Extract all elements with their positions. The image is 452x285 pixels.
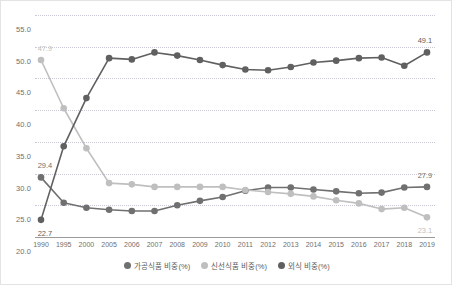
data-point (265, 67, 272, 74)
data-point (129, 181, 136, 188)
x-axis-tick-label: 2007 (147, 241, 163, 248)
y-axis-labels: 55.050.045.040.035.030.025.020.0 (1, 15, 31, 237)
data-point (151, 49, 158, 56)
data-point (38, 217, 45, 224)
data-point (219, 62, 226, 69)
x-axis-tick-label: 2008 (169, 241, 185, 248)
x-axis-tick-label: 2006 (124, 241, 140, 248)
data-point-label: 49.1 (418, 36, 433, 45)
data-point (242, 187, 249, 194)
y-axis-tick-label: 30.0 (16, 183, 31, 192)
legend-marker-icon (201, 262, 208, 269)
data-point (151, 208, 158, 215)
data-point (106, 206, 113, 213)
data-point (197, 57, 204, 64)
data-point (401, 205, 408, 212)
data-point (106, 180, 113, 187)
series-line (41, 52, 427, 219)
x-axis-tick-label: 2005 (101, 241, 117, 248)
x-axis-line (35, 237, 435, 238)
data-point (197, 198, 204, 205)
y-axis-tick-label: 55.0 (16, 25, 31, 34)
legend-item[interactable]: 가공식품 비중(%) (124, 260, 190, 271)
data-point (356, 200, 363, 207)
data-point (242, 66, 249, 73)
data-point (356, 190, 363, 197)
data-point (378, 54, 385, 61)
data-point (174, 184, 181, 191)
data-point (174, 202, 181, 209)
legend-label: 신선식품 비중(%) (211, 260, 267, 271)
y-axis-tick-label: 20.0 (16, 247, 31, 256)
x-axis-labels: 1990199520002005200620072008200920102011… (35, 241, 435, 255)
data-point (356, 55, 363, 62)
data-point (38, 174, 45, 181)
x-axis-tick-label: 2016 (351, 241, 367, 248)
data-point (129, 208, 136, 215)
x-axis-tick-label: 2019 (419, 241, 435, 248)
y-axis-tick-label: 40.0 (16, 120, 31, 129)
x-axis-tick-label: 2012 (260, 241, 276, 248)
x-axis-tick-label: 2017 (374, 241, 390, 248)
data-point (310, 186, 317, 193)
y-axis-tick-label: 35.0 (16, 151, 31, 160)
data-point-label: 47.9 (38, 44, 53, 53)
x-axis-tick-label: 2018 (396, 241, 412, 248)
x-axis-tick-label: 2011 (238, 241, 253, 248)
line-chart: 55.050.045.040.035.030.025.020.0 29.427.… (0, 0, 452, 285)
x-axis-tick-label: 2009 (192, 241, 208, 248)
data-point (38, 57, 45, 64)
data-point (287, 184, 294, 191)
legend-item[interactable]: 신선식품 비중(%) (201, 260, 267, 271)
data-point (60, 105, 67, 112)
legend-marker-icon (278, 262, 285, 269)
y-axis-tick-label: 25.0 (16, 215, 31, 224)
x-axis-tick-label: 2014 (306, 241, 322, 248)
data-point-label: 22.7 (38, 228, 53, 237)
data-point (378, 189, 385, 196)
data-point (106, 55, 113, 62)
data-point (401, 184, 408, 191)
data-point (333, 188, 340, 195)
x-axis-tick-label: 2010 (215, 241, 231, 248)
data-point (83, 205, 90, 212)
legend-label: 외식 비중(%) (288, 260, 330, 271)
data-point (310, 193, 317, 200)
data-point (265, 189, 272, 196)
data-point (378, 206, 385, 213)
data-point (424, 49, 431, 56)
data-point (424, 214, 431, 221)
data-point (197, 184, 204, 191)
data-point-label: 23.1 (418, 226, 433, 235)
data-point-label: 27.9 (418, 170, 433, 179)
x-axis-tick-label: 2013 (283, 241, 299, 248)
data-point (219, 194, 226, 201)
legend-item[interactable]: 외식 비중(%) (278, 260, 330, 271)
data-point (424, 184, 431, 191)
x-axis-tick-label: 2015 (328, 241, 344, 248)
data-point (83, 145, 90, 152)
data-point (83, 95, 90, 102)
legend-marker-icon (124, 262, 131, 269)
y-axis-tick-label: 45.0 (16, 88, 31, 97)
data-point (401, 62, 408, 69)
data-point (333, 197, 340, 204)
plot-area: 29.427.947.923.122.749.1 (35, 15, 435, 237)
data-point (174, 52, 181, 59)
data-point (219, 184, 226, 191)
data-point (310, 59, 317, 66)
chart-legend: 가공식품 비중(%)신선식품 비중(%)외식 비중(%) (1, 260, 452, 271)
data-point (151, 184, 158, 191)
data-point (287, 191, 294, 198)
x-axis-tick-label: 2000 (79, 241, 95, 248)
x-axis-tick-label: 1990 (33, 241, 49, 248)
legend-label: 가공식품 비중(%) (134, 260, 190, 271)
x-axis-tick-label: 1995 (56, 241, 72, 248)
data-point (287, 64, 294, 71)
data-point (60, 199, 67, 206)
y-axis-tick-label: 50.0 (16, 56, 31, 65)
data-point (60, 143, 67, 150)
series-layer (35, 15, 435, 237)
data-point (129, 56, 136, 63)
data-point (333, 57, 340, 64)
